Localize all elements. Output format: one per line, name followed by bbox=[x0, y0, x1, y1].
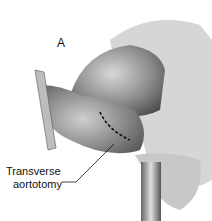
annotation-label-line1: Transverse bbox=[6, 165, 61, 177]
surgical-illustration: A Transverse aortotomy bbox=[0, 0, 212, 221]
annotation-label-line2: aortotomy bbox=[13, 178, 62, 190]
panel-label: A bbox=[57, 37, 65, 49]
